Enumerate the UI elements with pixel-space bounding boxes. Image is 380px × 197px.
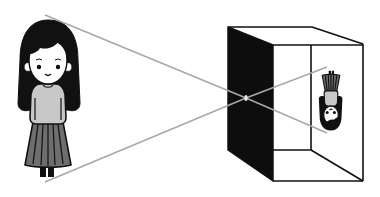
pinhole-box (228, 27, 363, 181)
box-front-face (228, 27, 273, 181)
girl-figure (18, 20, 80, 177)
pinhole-camera-diagram: Pinhole camera (camera obscura) principl… (0, 0, 380, 197)
pinhole (244, 95, 247, 101)
girl-eye-right (56, 65, 60, 69)
girl-eye-left (37, 65, 41, 69)
